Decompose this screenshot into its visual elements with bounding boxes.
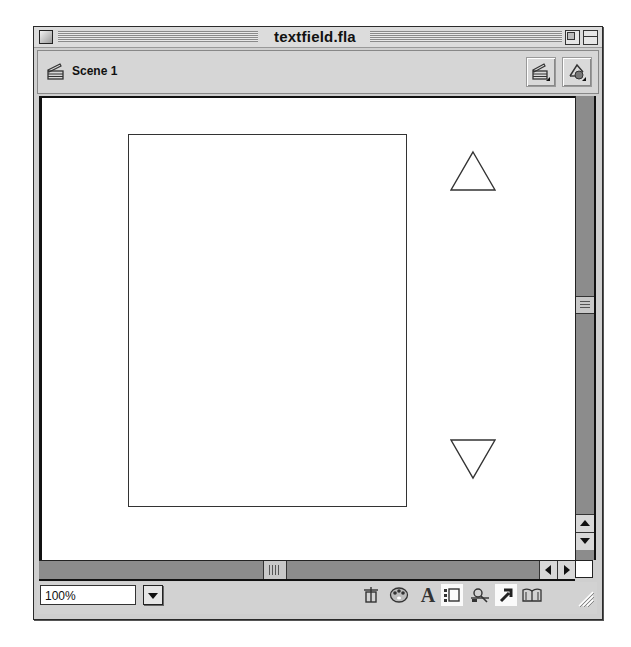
color-palette-button[interactable] <box>388 584 410 606</box>
scrollbar-corner <box>575 560 593 578</box>
library-book-icon <box>521 586 543 604</box>
align-icon <box>442 586 462 604</box>
actions-panel-button[interactable] <box>495 584 517 606</box>
text-field-frame[interactable] <box>128 134 407 507</box>
align-panel-button[interactable] <box>441 584 463 606</box>
zoom-box-icon[interactable] <box>565 30 580 45</box>
zoom-dropdown-button[interactable] <box>143 585 163 605</box>
title-stripes-left <box>58 31 258 42</box>
clapperboard-dropdown-icon <box>531 62 551 82</box>
character-panel-button[interactable]: A <box>417 584 439 606</box>
collapse-box-icon[interactable] <box>583 30 598 45</box>
horizontal-scroll-thumb[interactable] <box>263 561 287 579</box>
scroll-down-button[interactable] <box>576 532 594 550</box>
edit-scene-button[interactable] <box>526 57 556 87</box>
clapperboard-icon <box>46 63 66 81</box>
scroll-left-button[interactable] <box>539 561 557 579</box>
status-bar: 100% A <box>37 582 597 614</box>
horizontal-scrollbar[interactable] <box>39 560 575 581</box>
stage[interactable] <box>39 96 575 560</box>
vertical-scrollbar[interactable] <box>575 96 596 560</box>
info-grid-icon <box>362 586 380 604</box>
shapes-dropdown-icon <box>567 62 587 82</box>
color-palette-icon <box>389 586 409 604</box>
triangle-up-shape[interactable] <box>449 150 497 192</box>
arrow-left-icon <box>545 565 551 575</box>
document-window: textfield.fla Scene 1 <box>33 26 603 620</box>
scene-label[interactable]: Scene 1 <box>72 64 117 78</box>
resize-grip-icon[interactable] <box>577 590 595 608</box>
zoom-level-field[interactable]: 100% <box>40 585 136 605</box>
triangle-down-icon <box>148 593 158 599</box>
arrow-right-icon <box>564 565 570 575</box>
actions-arrow-icon <box>497 586 515 604</box>
info-panel-button[interactable] <box>360 584 382 606</box>
arrow-up-icon <box>580 520 590 526</box>
scroll-right-button[interactable] <box>557 561 575 579</box>
edit-symbols-button[interactable] <box>562 57 592 87</box>
scroll-up-button[interactable] <box>576 514 594 532</box>
window-title: textfield.fla <box>263 28 367 45</box>
close-box-icon[interactable] <box>39 30 53 44</box>
scene-bar: Scene 1 <box>37 50 599 94</box>
title-bar[interactable]: textfield.fla <box>34 27 602 48</box>
movie-explorer-button[interactable] <box>469 584 491 606</box>
triangle-down-shape[interactable] <box>449 438 497 480</box>
arrow-down-icon <box>580 538 590 544</box>
library-button[interactable] <box>521 584 543 606</box>
title-stripes-right <box>370 31 562 42</box>
vertical-scroll-thumb[interactable] <box>576 296 594 314</box>
movie-explorer-icon <box>469 586 491 604</box>
